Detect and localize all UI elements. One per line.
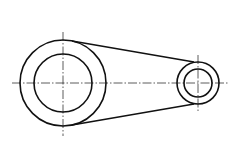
link-drawing [0, 0, 236, 152]
caption [60, 138, 180, 150]
upper-tangent-line [72, 41, 194, 62]
lower-tangent-line [72, 104, 194, 125]
